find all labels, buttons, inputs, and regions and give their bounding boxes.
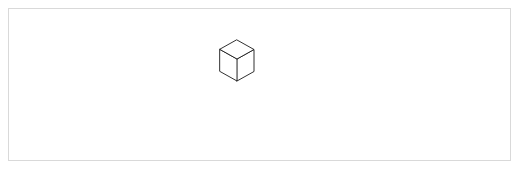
figure-panel — [0, 0, 521, 171]
cube-stack-figure — [0, 0, 521, 171]
